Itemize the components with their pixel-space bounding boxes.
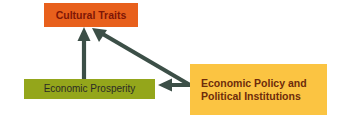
node-economic-prosperity[interactable]: Economic Prosperity [24, 79, 155, 99]
node-economic-policy-label: Economic Policy and Political Institutio… [201, 77, 327, 103]
arrowhead-up-to-cultural-traits [78, 27, 91, 41]
arrow-policy-to-cultural-traits [92, 28, 190, 85]
node-economic-policy[interactable]: Economic Policy and Political Institutio… [190, 64, 327, 115]
node-cultural-traits-label: Cultural Traits [44, 9, 138, 22]
diagram-canvas: Cultural Traits Economic Prosperity Econ… [0, 0, 340, 116]
node-economic-prosperity-label: Economic Prosperity [24, 83, 155, 95]
arrowhead-left-to-prosperity [158, 79, 172, 92]
arrow-shaft-diagonal [101, 33, 190, 85]
node-cultural-traits[interactable]: Cultural Traits [44, 3, 138, 27]
arrow-prosperity-to-cultural-traits [78, 27, 91, 79]
